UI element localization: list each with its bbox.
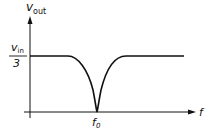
notch-response-chart: vout vin 3 f0 f (0, 0, 209, 135)
response-curve (30, 56, 184, 112)
x-axis-arrow-icon (188, 110, 196, 115)
notch-frequency-label: f0 (92, 116, 101, 130)
level-label-denominator: 3 (13, 57, 20, 70)
level-label-numerator: vin (11, 41, 24, 55)
y-axis-label: vout (26, 0, 46, 16)
y-axis-arrow-icon (28, 16, 33, 24)
x-axis-label: f (199, 106, 205, 119)
